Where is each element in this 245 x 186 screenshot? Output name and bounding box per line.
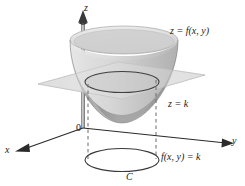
surface-equation-label: z = f(x, y) [170, 26, 209, 36]
y-axis-label: y [232, 136, 236, 146]
level-set-equation-label: f(x, y) = k [161, 152, 201, 162]
y-axis [83, 128, 234, 148]
level-curve-label: C [126, 172, 133, 182]
plane-equation-label: z = k [168, 99, 188, 109]
level-curve-figure: z y x 0 z = f(x, y) z = k f(x, y) = k C [0, 0, 245, 186]
x-axis-label: x [5, 145, 9, 155]
x-axis [15, 128, 83, 152]
trace-ellipse [85, 72, 159, 93]
origin-label: 0 [76, 123, 81, 133]
z-axis-label: z [84, 3, 88, 13]
level-curve-C [85, 149, 159, 172]
